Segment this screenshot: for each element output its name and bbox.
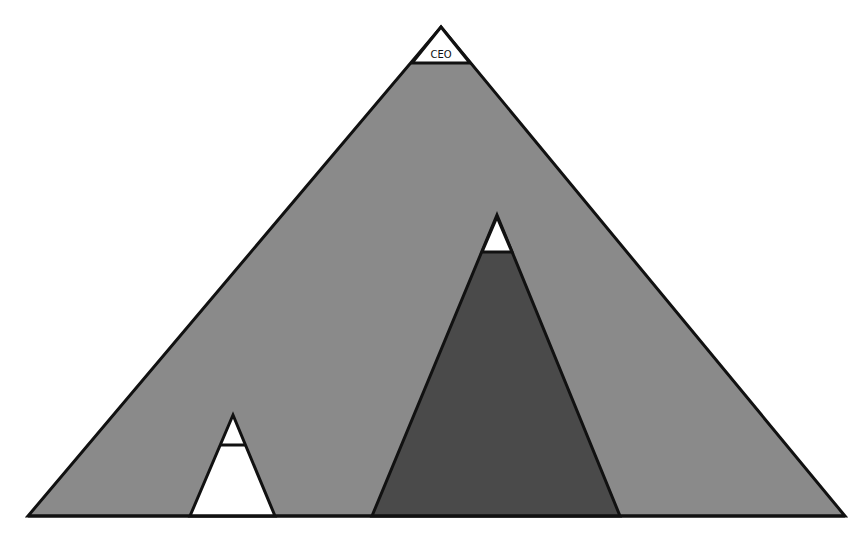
ceo-label: CEO	[430, 49, 451, 60]
org-pyramid-diagram: CEO	[0, 0, 867, 538]
